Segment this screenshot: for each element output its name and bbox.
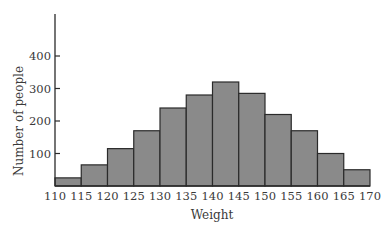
x-tick-label: 155 — [280, 189, 302, 203]
x-tick-label: 135 — [175, 189, 197, 203]
x-tick-label: 110 — [44, 189, 66, 203]
y-tick-label: 300 — [29, 82, 51, 96]
x-tick-label: 165 — [333, 189, 355, 203]
bars-group — [55, 82, 370, 186]
histogram-bar — [81, 165, 107, 186]
histogram-chart: 100200300400 110115120125130135140145150… — [0, 0, 392, 231]
x-tick-label: 120 — [97, 189, 119, 203]
x-ticks-group: 110115120125130135140145150155160165170 — [44, 189, 381, 203]
x-tick-label: 160 — [307, 189, 329, 203]
x-tick-label: 145 — [228, 189, 250, 203]
y-axis-title: Number of people — [12, 66, 26, 176]
x-tick-label: 150 — [254, 189, 276, 203]
x-tick-label: 170 — [359, 189, 381, 203]
histogram-bar — [213, 82, 239, 186]
histogram-bar — [186, 95, 212, 186]
histogram-bar — [344, 170, 370, 186]
histogram-bar — [108, 149, 134, 186]
histogram-bar — [291, 131, 317, 186]
histogram-bar — [160, 108, 186, 186]
x-tick-label: 140 — [202, 189, 224, 203]
y-tick-label: 200 — [29, 114, 51, 128]
y-tick-label: 100 — [29, 147, 51, 161]
x-tick-label: 125 — [123, 189, 145, 203]
histogram-bar — [239, 93, 265, 186]
histogram-bar — [265, 115, 291, 187]
y-tick-label: 400 — [29, 49, 51, 63]
x-tick-label: 130 — [149, 189, 171, 203]
histogram-bar — [134, 131, 160, 186]
x-axis-title: Weight — [191, 208, 234, 222]
histogram-bar — [318, 154, 344, 187]
x-tick-label: 115 — [70, 189, 92, 203]
histogram-bar — [55, 178, 81, 186]
